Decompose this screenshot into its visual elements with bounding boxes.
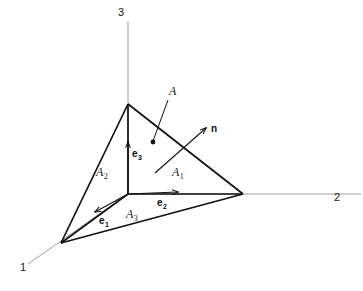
face-2-label-sub: 2 (104, 172, 108, 181)
cauchy-tetrahedron-figure: 1 2 3 A A1 A2 A3 e1 e2 e3 (0, 0, 363, 291)
face-3-label-sub: 3 (134, 214, 138, 223)
face-2-label: A2 (95, 165, 108, 181)
face-1-label: A1 (171, 165, 184, 181)
oblique-face-label: A (168, 84, 177, 98)
edge-vertex3-to-vertex2 (128, 104, 243, 194)
axis-label-2: 2 (334, 191, 340, 203)
axis-label-3: 3 (118, 6, 124, 18)
edge-vertex3-to-vertex1 (61, 104, 128, 243)
e1-label: e1 (99, 215, 109, 228)
face-2-label-base: A (95, 165, 104, 179)
edge-origin-to-vertex1 (61, 194, 128, 243)
oblique-face-point-dot (151, 140, 156, 145)
e1-label-sub: 1 (105, 221, 109, 228)
leader-line (153, 100, 168, 141)
axis-label-1: 1 (20, 261, 26, 273)
tetrahedron-canvas: 1 2 3 A A1 A2 A3 e1 e2 e3 (0, 0, 363, 291)
e2-label-sub: 2 (163, 203, 167, 210)
e3-label: e3 (132, 148, 142, 161)
e2-label: e2 (157, 197, 167, 210)
face-3-label-base: A (125, 207, 134, 221)
coordinate-axes (28, 21, 361, 264)
face-3-label: A3 (125, 207, 138, 223)
edge-vertex1-to-vertex2 (61, 194, 243, 243)
e1-vector-arrow (95, 194, 128, 212)
normal-vector-label: n (211, 123, 217, 134)
oblique-face-leader (151, 100, 168, 144)
normal-vector-arrow (155, 128, 206, 173)
face-1-label-base: A (171, 165, 180, 179)
e3-label-sub: 3 (138, 154, 142, 161)
face-1-label-sub: 1 (180, 172, 184, 181)
